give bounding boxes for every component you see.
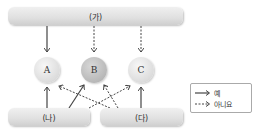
legend-solid: 예 (195, 88, 220, 98)
legend-solid-label: 예 (214, 88, 220, 98)
legend-dashed-label: 아니요 (214, 99, 232, 109)
solid-arrow-icon (195, 90, 211, 96)
arrow-na-to-c (89, 86, 130, 108)
legend-dashed: 아니요 (195, 99, 232, 109)
bottom-right-box-da: (다) (100, 108, 183, 126)
legend: 예 아니요 (190, 83, 252, 113)
bottom-right-box-label: (다) (135, 112, 148, 123)
bottom-left-box-na: (나) (8, 108, 90, 126)
arrow-na-to-b (69, 85, 84, 108)
bottom-left-box-label: (나) (42, 112, 55, 123)
arrow-da-to-a (59, 86, 110, 108)
dashed-arrow-icon (195, 101, 211, 107)
